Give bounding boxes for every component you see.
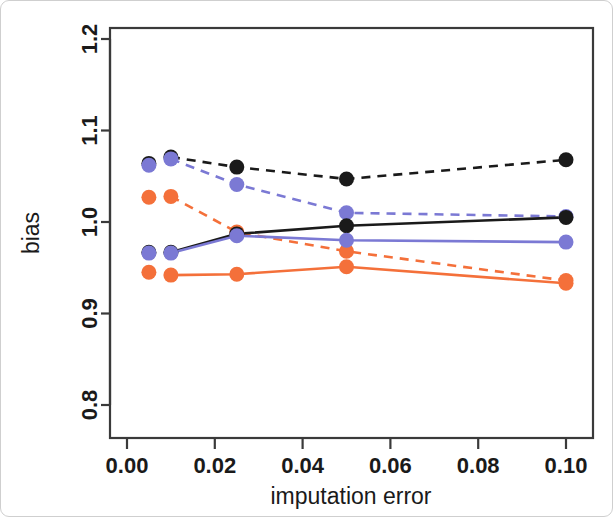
y-tick-marks [101, 39, 110, 405]
data-point-blue-dashed [163, 151, 178, 166]
x-tick-label: 0.02 [193, 453, 236, 478]
data-point-blue-solid [141, 246, 156, 261]
data-point-blue-solid [339, 233, 354, 248]
data-point-orange-solid [559, 276, 574, 291]
data-point-orange-solid [339, 259, 354, 274]
y-tick-label: 0.8 [77, 390, 102, 421]
x-tick-marks [127, 438, 566, 449]
data-point-black-solid [559, 210, 574, 225]
data-point-orange-solid [229, 267, 244, 282]
data-point-blue-dashed [339, 205, 354, 220]
y-axis-title: bias [18, 212, 44, 254]
figure-frame: 0.80.91.01.11.2 bias 0.000.020.040.060.0… [0, 0, 613, 517]
data-point-orange-dashed [141, 190, 156, 205]
data-point-blue-solid [229, 228, 244, 243]
y-tick-label: 0.9 [77, 298, 102, 329]
data-point-black-dashed [339, 172, 354, 187]
plot-panel-box [110, 28, 593, 438]
y-tick-label: 1.1 [77, 115, 102, 146]
data-point-black-dashed [229, 160, 244, 175]
y-tick-label: 1.0 [77, 207, 102, 238]
y-tick-label: 1.2 [77, 24, 102, 55]
x-tick-label: 0.04 [281, 453, 325, 478]
data-point-orange-solid [163, 268, 178, 283]
data-point-orange-dashed [163, 189, 178, 204]
data-point-blue-dashed [141, 158, 156, 173]
x-tick-label: 0.10 [545, 453, 588, 478]
x-axis-title: imputation error [270, 483, 431, 509]
bias-vs-imputation-error-chart: 0.80.91.01.11.2 bias 0.000.020.040.060.0… [1, 1, 613, 517]
data-point-black-dashed [559, 152, 574, 167]
data-point-blue-dashed [229, 177, 244, 192]
y-axis: 0.80.91.01.11.2 bias [18, 24, 110, 421]
x-tick-label: 0.06 [369, 453, 412, 478]
data-point-orange-solid [141, 265, 156, 280]
x-axis: 0.000.020.040.060.080.10 imputation erro… [106, 438, 588, 509]
data-point-black-solid [339, 218, 354, 233]
y-tick-labels: 0.80.91.01.11.2 [77, 24, 102, 421]
x-tick-label: 0.00 [106, 453, 149, 478]
x-tick-label: 0.08 [457, 453, 500, 478]
data-point-blue-solid [163, 246, 178, 261]
series-lines-layer [171, 157, 566, 283]
data-point-blue-solid [559, 235, 574, 250]
x-tick-labels: 0.000.020.040.060.080.10 [106, 453, 588, 478]
